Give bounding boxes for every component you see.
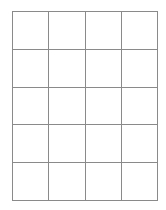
grid-cell — [86, 50, 122, 88]
grid-cell — [86, 12, 122, 50]
grid-cell — [86, 88, 122, 126]
grid-cell — [49, 50, 85, 88]
grid-cell — [122, 50, 158, 88]
grid-cell — [122, 125, 158, 163]
grid-cell — [122, 12, 158, 50]
grid-cell — [49, 163, 85, 201]
grid-cell — [13, 125, 49, 163]
grid-cell — [13, 88, 49, 126]
grid-cell — [122, 163, 158, 201]
grid-cell — [49, 125, 85, 163]
grid-cell — [13, 12, 49, 50]
empty-grid — [12, 11, 158, 201]
grid-cell — [49, 12, 85, 50]
grid-cell — [13, 163, 49, 201]
grid-cell — [86, 125, 122, 163]
grid-cell — [49, 88, 85, 126]
grid-cell — [86, 163, 122, 201]
grid-cell — [122, 88, 158, 126]
grid-cell — [13, 50, 49, 88]
